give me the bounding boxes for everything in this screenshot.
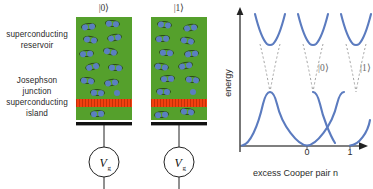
cooper-pair — [156, 88, 171, 96]
x-axis-arrow — [359, 142, 368, 150]
electron-dot — [181, 37, 188, 44]
label-josephson-junction: Josephson junction — [1, 76, 73, 97]
reservoir-region — [76, 17, 132, 99]
josephson-junction-bar — [76, 99, 132, 107]
electron-dot — [190, 24, 197, 31]
cooper-pair — [108, 63, 123, 71]
electron-dot — [161, 64, 168, 71]
electron-dot — [187, 38, 194, 45]
electron-dot — [92, 63, 99, 70]
island-region — [76, 107, 132, 120]
electron-dot — [91, 111, 97, 117]
cooper-pair — [102, 47, 118, 57]
label-superconducting-reservoir: superconducting reservoir — [1, 30, 73, 51]
state-label-ket0: |0⟩ — [76, 2, 132, 13]
dashed-branch — [270, 44, 280, 92]
electron-dot — [160, 50, 166, 56]
cooper-pair — [183, 23, 199, 32]
energy-band-chart: energy 0 1 |0⟩ |1⟩ excess Cooper pair n — [218, 0, 373, 189]
gate-circuit-svg: V g — [151, 121, 207, 189]
electron-dot — [191, 51, 198, 58]
cooper-pair — [154, 110, 170, 118]
electron-dot — [86, 51, 92, 57]
electron-dot — [110, 49, 117, 56]
gate-circuit: V g — [151, 121, 207, 189]
electron-dot — [161, 76, 167, 82]
device-diagram-ket1: V g — [151, 17, 207, 120]
electron-dot — [187, 109, 194, 116]
upper-band-branch — [341, 14, 371, 45]
electron-dot — [97, 90, 103, 96]
cooper-pair — [180, 36, 196, 45]
gate-voltage-subscript: g — [108, 164, 112, 172]
electron-dot — [167, 76, 173, 82]
electron-dot — [164, 22, 171, 29]
energy-band-svg — [218, 0, 373, 165]
superconductor-block — [151, 17, 207, 120]
y-axis-arrow — [237, 7, 244, 15]
electron-dot — [112, 21, 119, 28]
device-diagram-ket0: V g — [76, 17, 132, 120]
electron-dot — [155, 63, 162, 70]
label-superconducting-island: superconducting island — [1, 98, 73, 119]
gate-electrode — [76, 122, 132, 125]
electron-dot — [111, 79, 118, 86]
lower-band-right — [350, 120, 370, 146]
electron-dot — [161, 112, 168, 119]
superconductor-block — [76, 17, 132, 120]
cooper-pair — [104, 78, 120, 87]
electron-dot — [82, 24, 89, 31]
cooper-pair — [90, 110, 105, 118]
diabatic-dashed-curves — [260, 44, 366, 92]
upper-band-curve — [255, 14, 371, 45]
cooper-pair — [157, 20, 173, 29]
electron-dot — [158, 21, 165, 28]
y-axis-label: energy — [223, 55, 233, 111]
dashed-branch — [260, 44, 270, 92]
electron-dot — [97, 111, 103, 117]
upper-band-branch — [298, 14, 328, 45]
electron-dot — [84, 36, 91, 43]
reservoir-region — [151, 17, 207, 99]
charge-qubit-figure: superconducting reservoir Josephson junc… — [0, 0, 373, 189]
electron-dot — [109, 65, 115, 71]
cooper-pair — [79, 49, 94, 57]
upper-band-branch — [255, 14, 285, 45]
cooper-pair — [105, 19, 121, 27]
state-label-ket1: |1⟩ — [151, 2, 207, 13]
electron-dot — [80, 51, 86, 57]
cooper-pair — [81, 22, 97, 31]
chart-annotation-ket0: |0⟩ — [318, 62, 329, 73]
cooper-pair — [159, 48, 174, 56]
x-axis-label: excess Cooper pair n — [218, 168, 373, 178]
electron-dot — [90, 37, 97, 44]
cooper-pair — [90, 89, 105, 97]
gate-circuit: V g — [76, 121, 132, 189]
electron-dot — [87, 78, 94, 85]
electron-dot — [166, 50, 172, 56]
electron-dot — [186, 77, 193, 84]
cooper-pair — [107, 33, 123, 42]
lower-band-curve — [242, 92, 370, 146]
electron-dot — [181, 109, 188, 116]
dashed-branch — [346, 44, 356, 92]
island-region — [151, 107, 207, 120]
electron-dot — [163, 89, 169, 95]
electron-dot — [88, 24, 95, 31]
x-tick-label-1: 1 — [343, 147, 357, 157]
gate-voltage-subscript: g — [183, 164, 187, 172]
electron-dot — [157, 89, 163, 95]
electron-dot — [91, 90, 97, 96]
electron-dot — [115, 65, 121, 71]
cooper-pair — [80, 76, 96, 85]
cooper-pair — [83, 35, 99, 44]
gate-circuit-svg: V g — [76, 121, 132, 189]
cooper-pair — [160, 75, 175, 83]
cooper-pair — [155, 34, 171, 42]
cooper-pair — [84, 61, 100, 71]
electron-dot — [185, 51, 192, 58]
electron-dot — [114, 90, 120, 96]
cooper-pair — [184, 49, 200, 58]
electron-dot — [162, 36, 169, 43]
electron-dot — [106, 21, 113, 28]
